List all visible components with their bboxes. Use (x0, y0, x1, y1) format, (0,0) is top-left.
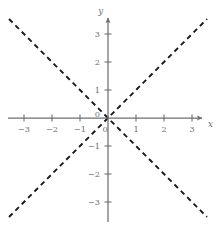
y-tick-label--2: −2 (88, 169, 100, 179)
y-tick-label-3: 3 (95, 29, 100, 39)
x-axis-label: x (208, 119, 213, 129)
y-tick-label-2: 2 (95, 57, 100, 67)
x-tick-label--2: −2 (46, 124, 58, 134)
x-tick-label-0: 0 (102, 124, 107, 134)
cartesian-plane-figure: −3 −2 −1 0 1 2 3 3 2 1 0 −1 −2 −3 x y (0, 0, 217, 228)
y-tick-label-0: 0 (95, 109, 100, 119)
x-tick-label-2: 2 (161, 124, 166, 134)
x-tick-label-1: 1 (133, 124, 138, 134)
y-axis-label: y (97, 6, 103, 16)
y-tick-label-1: 1 (95, 85, 100, 95)
x-tick-label--1: −1 (74, 124, 86, 134)
x-tick-label--3: −3 (18, 124, 30, 134)
x-tick-label-3: 3 (189, 124, 194, 134)
plot-canvas: −3 −2 −1 0 1 2 3 3 2 1 0 −1 −2 −3 x y (0, 0, 217, 228)
y-tick-label--1: −1 (88, 141, 100, 151)
y-tick-label--3: −3 (88, 197, 100, 207)
